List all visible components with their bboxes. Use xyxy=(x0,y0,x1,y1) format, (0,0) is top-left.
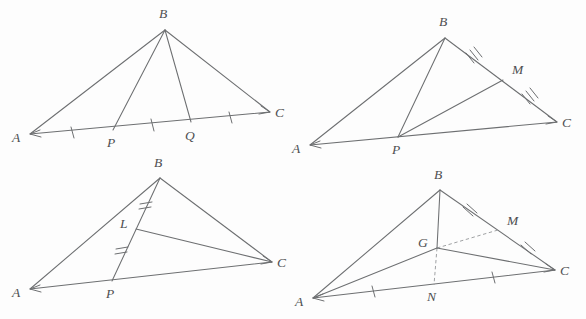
label-a: A xyxy=(291,141,301,156)
panel-3-arrowcaps xyxy=(30,256,272,292)
side-ac xyxy=(30,112,270,134)
panel-4-edges xyxy=(313,190,555,298)
label-b: B xyxy=(439,14,447,29)
panel-4-labels: A B C M N G xyxy=(294,167,570,309)
median-gn-lower xyxy=(434,248,437,285)
label-c: C xyxy=(275,105,285,120)
panel-1: A B C P Q xyxy=(11,6,285,150)
label-m: M xyxy=(511,62,524,77)
label-p: P xyxy=(106,135,115,150)
figure-sheet: A B C P Q xyxy=(0,0,586,319)
panel-1-labels: A B C P Q xyxy=(11,6,285,150)
segment-gc xyxy=(437,248,555,270)
side-bc xyxy=(445,38,557,122)
label-a: A xyxy=(294,294,304,309)
cevian-bq xyxy=(165,30,191,122)
label-q: Q xyxy=(185,128,195,143)
panel-3-labels: A B C P L xyxy=(11,155,287,301)
geometry-canvas: A B C P Q xyxy=(0,0,586,319)
tick-bl-double xyxy=(139,202,152,209)
median-bn-upper xyxy=(437,190,440,248)
cevian-bp xyxy=(113,30,165,130)
panel-1-edges xyxy=(30,30,270,134)
label-m: M xyxy=(506,213,519,228)
panel-1-ticks xyxy=(71,112,232,138)
side-bc xyxy=(165,30,270,112)
side-ac xyxy=(30,262,272,289)
segment-lc xyxy=(136,229,272,262)
label-b: B xyxy=(154,155,162,170)
label-l: L xyxy=(119,216,128,231)
side-ab xyxy=(310,38,445,145)
median-gm xyxy=(437,230,498,248)
label-c: C xyxy=(562,115,572,130)
label-g: G xyxy=(418,235,428,250)
panel-2: A B C P M xyxy=(291,14,572,157)
label-b: B xyxy=(159,6,167,21)
tick-ap-1 xyxy=(71,127,74,138)
panel-2-labels: A B C P M xyxy=(291,14,572,157)
panel-3-edges xyxy=(30,178,272,289)
label-a: A xyxy=(11,130,21,145)
panel-4: A B C M N G xyxy=(294,167,570,309)
tick-qc-1 xyxy=(229,112,232,123)
panel-2-arrowcaps xyxy=(310,116,557,148)
side-ac xyxy=(310,122,557,145)
panel-2-ticks xyxy=(466,47,538,104)
label-n: N xyxy=(426,289,437,304)
panel-3: A B C P L xyxy=(11,155,287,301)
panel-2-edges xyxy=(310,38,557,145)
label-b: B xyxy=(434,167,442,182)
tick-pq-1 xyxy=(151,119,154,131)
label-c: C xyxy=(560,263,570,278)
side-ab xyxy=(30,30,165,134)
side-bc xyxy=(160,178,272,262)
cevian-bp xyxy=(398,38,445,137)
panel-1-arrowcaps xyxy=(30,106,270,137)
label-c: C xyxy=(277,255,287,270)
label-a: A xyxy=(11,285,21,300)
side-ab xyxy=(30,178,160,289)
label-p: P xyxy=(105,286,114,301)
label-p: P xyxy=(391,142,400,157)
